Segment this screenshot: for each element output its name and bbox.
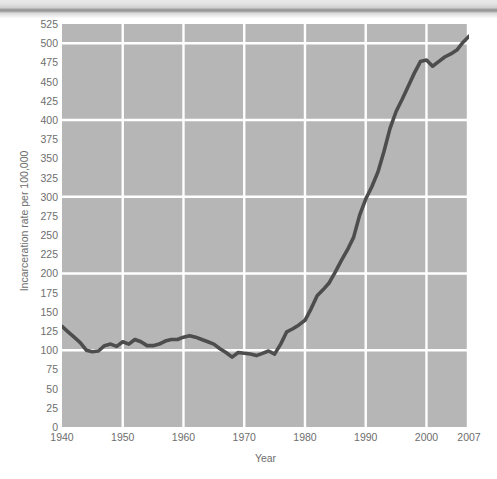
y-axis-tick-label: 325 <box>4 173 58 183</box>
x-axis-tick-label: 1970 <box>233 431 256 443</box>
y-axis-tick-label: 75 <box>4 364 58 374</box>
x-axis-tick-labels: 19401950196019701980199020002007 <box>62 431 469 447</box>
y-axis-tick-label: 525 <box>4 19 58 29</box>
data-line-series <box>62 24 469 427</box>
y-axis-tick-label: 475 <box>4 57 58 67</box>
x-axis-title: Year <box>62 452 469 464</box>
y-axis-tick-label: 125 <box>4 326 58 336</box>
y-axis-tick-label: 275 <box>4 211 58 221</box>
incarceration-rate-line-chart: 0255075100125150175200225250275300325350… <box>0 0 497 479</box>
x-axis-tick-label: 2000 <box>415 431 438 443</box>
y-axis-tick-label: 175 <box>4 288 58 298</box>
y-axis-tick-label: 50 <box>4 384 58 394</box>
plot-area <box>62 24 469 427</box>
x-axis-tick-label: 1980 <box>293 431 316 443</box>
x-axis-tick-label: 2007 <box>457 431 480 443</box>
y-axis-tick-label: 425 <box>4 96 58 106</box>
series-line <box>62 36 469 357</box>
y-axis-tick-label: 500 <box>4 38 58 48</box>
y-axis-tick-label: 150 <box>4 307 58 317</box>
y-axis-tick-label: 350 <box>4 153 58 163</box>
x-axis-tick-label: 1950 <box>111 431 134 443</box>
y-axis-tick-label: 25 <box>4 403 58 413</box>
y-axis-tick-label: 300 <box>4 192 58 202</box>
y-axis-title: Incarceration rate per 100,000 <box>18 121 30 321</box>
x-axis-tick-label: 1940 <box>50 431 73 443</box>
x-axis-tick-label: 1990 <box>354 431 377 443</box>
y-axis-tick-label: 375 <box>4 134 58 144</box>
x-axis-tick-label: 1960 <box>172 431 195 443</box>
y-axis-tick-label: 200 <box>4 268 58 278</box>
y-axis-tick-label: 100 <box>4 345 58 355</box>
y-axis-tick-label: 450 <box>4 77 58 87</box>
y-axis-tick-label: 400 <box>4 115 58 125</box>
y-axis-tick-label: 250 <box>4 230 58 240</box>
y-axis-tick-label: 225 <box>4 249 58 259</box>
